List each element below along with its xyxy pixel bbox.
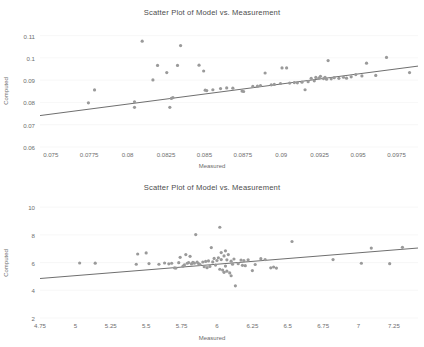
x-tick-label: 7 bbox=[357, 322, 360, 329]
data-point bbox=[165, 71, 168, 74]
regression-line bbox=[40, 66, 418, 115]
data-point bbox=[135, 263, 138, 266]
data-point bbox=[342, 76, 345, 79]
data-point bbox=[136, 252, 139, 255]
data-point bbox=[337, 77, 340, 80]
data-point bbox=[203, 265, 206, 268]
x-tick-label: 0.09 bbox=[275, 151, 287, 158]
data-point bbox=[232, 257, 235, 260]
data-point bbox=[314, 76, 317, 79]
data-point bbox=[133, 100, 136, 103]
data-point bbox=[254, 263, 257, 266]
data-point bbox=[201, 260, 204, 263]
data-point bbox=[385, 56, 388, 59]
data-point bbox=[204, 260, 207, 263]
data-point bbox=[288, 81, 291, 84]
data-point bbox=[87, 101, 90, 104]
y-tick-label: 6 bbox=[0, 259, 35, 266]
chart-panel-top: Scatter Plot of Model vs. Measurement Co… bbox=[0, 0, 424, 175]
x-tick-label: 7.25 bbox=[388, 322, 400, 329]
x-tick-label: 0.0825 bbox=[157, 151, 176, 158]
data-point bbox=[272, 265, 275, 268]
data-point bbox=[210, 246, 213, 249]
data-point bbox=[259, 84, 262, 87]
data-point bbox=[313, 79, 316, 82]
data-point bbox=[231, 263, 234, 266]
data-point bbox=[331, 258, 334, 261]
x-tick-label: 0.075 bbox=[43, 151, 58, 158]
plot-area-bottom bbox=[40, 203, 418, 318]
x-tick-label: 0.095 bbox=[350, 151, 365, 158]
data-point bbox=[280, 66, 283, 69]
data-point bbox=[176, 64, 179, 67]
data-point bbox=[242, 259, 245, 262]
data-point bbox=[264, 258, 267, 261]
scatter-canvas-top bbox=[40, 30, 418, 147]
data-point bbox=[325, 78, 328, 81]
data-point bbox=[179, 256, 182, 259]
data-point bbox=[171, 96, 174, 99]
data-point bbox=[259, 257, 262, 260]
data-point bbox=[408, 71, 411, 74]
data-point bbox=[222, 254, 225, 257]
data-point bbox=[365, 62, 368, 65]
data-point bbox=[230, 274, 233, 277]
y-tick-label: 10 bbox=[0, 204, 35, 211]
data-point bbox=[217, 256, 220, 259]
x-tick-label: 0.0875 bbox=[234, 151, 253, 158]
data-point bbox=[256, 85, 259, 88]
data-point bbox=[303, 88, 306, 91]
data-point bbox=[330, 77, 333, 80]
data-point bbox=[230, 260, 233, 263]
data-point bbox=[184, 253, 187, 256]
data-point bbox=[78, 261, 81, 264]
data-point bbox=[219, 87, 222, 90]
data-point bbox=[168, 106, 171, 109]
data-point bbox=[133, 106, 136, 109]
data-point bbox=[218, 226, 221, 229]
data-point bbox=[156, 64, 159, 67]
x-tick-label: 6.75 bbox=[317, 322, 329, 329]
data-point bbox=[293, 81, 296, 84]
data-point bbox=[360, 262, 363, 265]
data-point bbox=[285, 66, 288, 69]
data-point bbox=[224, 249, 227, 252]
data-point bbox=[145, 251, 148, 254]
data-point bbox=[141, 40, 144, 43]
y-tick-label: 0.06 bbox=[0, 144, 35, 151]
data-point bbox=[300, 81, 303, 84]
data-point bbox=[157, 263, 160, 266]
chart-title-bottom: Scatter Plot of Model vs. Measurement bbox=[0, 183, 424, 192]
data-point bbox=[167, 262, 170, 265]
x-tick-label: 5.5 bbox=[142, 322, 150, 329]
data-point bbox=[247, 258, 250, 261]
data-point bbox=[224, 264, 227, 267]
data-point bbox=[237, 262, 240, 265]
data-point bbox=[401, 246, 404, 249]
data-point bbox=[370, 246, 373, 249]
data-point bbox=[244, 264, 247, 267]
data-point bbox=[333, 76, 336, 79]
data-point bbox=[193, 262, 196, 265]
data-point bbox=[231, 87, 234, 90]
data-point bbox=[93, 88, 96, 91]
y-tick-label: 2 bbox=[0, 315, 35, 322]
data-point bbox=[290, 240, 293, 243]
x-tick-label: 0.0925 bbox=[310, 151, 329, 158]
x-tick-label: 0.08 bbox=[122, 151, 134, 158]
x-tick-label: 0.085 bbox=[197, 151, 212, 158]
data-point bbox=[264, 71, 267, 74]
data-point bbox=[205, 89, 208, 92]
data-point bbox=[225, 86, 228, 89]
data-point bbox=[225, 258, 228, 261]
scatter-plot-figure: Scatter Plot of Model vs. Measurement Co… bbox=[0, 0, 424, 347]
scatter-canvas-bottom bbox=[40, 203, 418, 318]
y-tick-label: 4 bbox=[0, 287, 35, 294]
data-point bbox=[198, 263, 201, 266]
data-point bbox=[222, 271, 225, 274]
data-point bbox=[211, 260, 214, 263]
data-point bbox=[179, 44, 182, 47]
x-tick-label: 0.0775 bbox=[80, 151, 99, 158]
data-point bbox=[163, 261, 166, 264]
chart-panel-bottom: Scatter Plot of Model vs. Measurement Co… bbox=[0, 175, 424, 347]
